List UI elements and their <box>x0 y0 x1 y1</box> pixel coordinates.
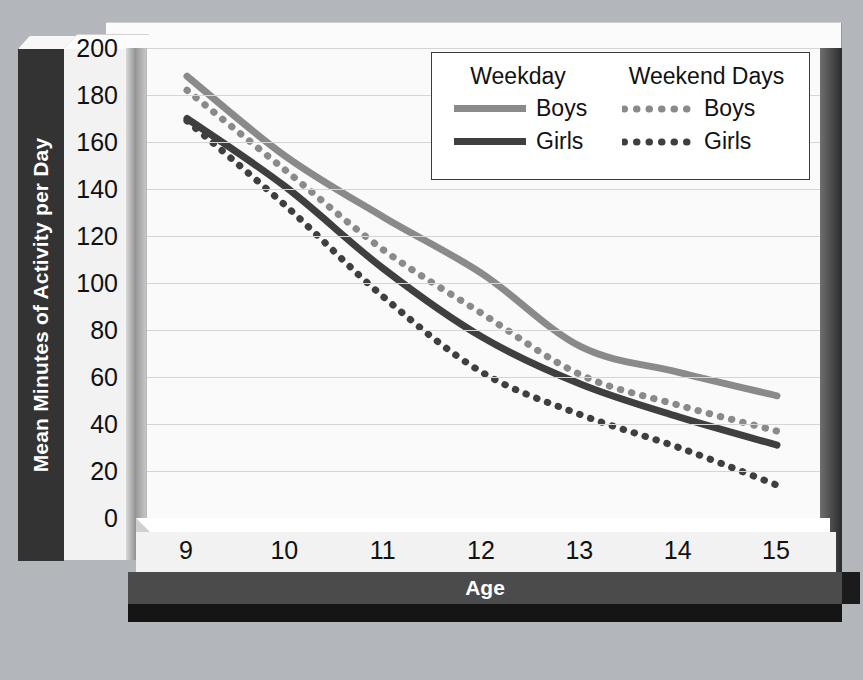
gridline <box>147 189 820 190</box>
legend-swatch-weekday-boys <box>454 105 526 112</box>
y-axis-title: Mean Minutes of Activity per Day <box>29 138 53 473</box>
y-tick-label: 200 <box>76 36 118 61</box>
y-tick-label: 180 <box>76 83 118 108</box>
y-tick-label: 20 <box>90 459 118 484</box>
gridline <box>147 236 820 237</box>
y-tick-label: 100 <box>76 271 118 296</box>
x-tick-label: 13 <box>565 536 593 565</box>
x-tick-label: 12 <box>467 536 495 565</box>
y-tick-label: 160 <box>76 130 118 155</box>
legend-label-weekend-girls: Girls <box>704 128 751 155</box>
x-axis-title: Age <box>465 576 505 600</box>
legend-label-weekday-boys: Boys <box>536 95 587 122</box>
x-tick-label: 11 <box>370 536 396 565</box>
legend-swatch-weekend-boys <box>622 105 694 112</box>
legend-item-weekday-boys: Boys <box>432 95 604 122</box>
y-tick-label: 140 <box>76 177 118 202</box>
legend-swatch-weekend-girls <box>622 138 694 145</box>
y-tick-label: 0 <box>104 506 118 531</box>
plot-floor <box>136 518 830 533</box>
legend-header-weekend: Weekend Days <box>604 63 809 90</box>
x-axis-ticks: 9101112131415 <box>136 532 836 572</box>
x-tick-label: 9 <box>179 536 193 565</box>
x-axis-title-bar: Age <box>128 572 842 604</box>
legend-label-weekday-girls: Girls <box>536 128 583 155</box>
gridline <box>147 330 820 331</box>
y-axis-side-bevel <box>126 48 136 560</box>
y-axis-title-bar: Mean Minutes of Activity per Day <box>18 48 64 561</box>
legend-row-girls: Girls Girls <box>432 125 809 158</box>
y-tick-label: 60 <box>90 365 118 390</box>
legend-item-weekday-girls: Girls <box>432 128 604 155</box>
y-tick-label: 120 <box>76 224 118 249</box>
x-tick-label: 10 <box>270 536 298 565</box>
legend-label-weekend-boys: Boys <box>704 95 755 122</box>
legend-headers: Weekday Weekend Days <box>432 53 809 92</box>
legend-row-boys: Boys Boys <box>432 92 809 125</box>
x-tick-label: 15 <box>762 536 790 565</box>
legend-item-weekend-boys: Boys <box>604 95 809 122</box>
plot-left-wall <box>136 48 146 518</box>
legend-item-weekend-girls: Girls <box>604 128 809 155</box>
legend-header-weekday: Weekday <box>432 63 604 90</box>
gridline <box>147 377 820 378</box>
gridline <box>147 283 820 284</box>
y-axis-ticks: 020406080100120140160180200 <box>64 48 126 560</box>
plot-top-bevel <box>106 22 842 48</box>
y-tick-label: 80 <box>90 318 118 343</box>
gridline <box>147 471 820 472</box>
y-tick-label: 40 <box>90 412 118 437</box>
gridline <box>147 424 820 425</box>
y-axis-label-panel: 020406080100120140160180200 <box>64 48 136 560</box>
chart-figure: Mean Minutes of Activity per Day 0204060… <box>0 0 863 680</box>
x-tick-label: 14 <box>664 536 692 565</box>
gridline <box>147 48 820 49</box>
legend: Weekday Weekend Days Boys Boys Girls <box>431 52 810 180</box>
legend-swatch-weekday-girls <box>454 138 526 145</box>
